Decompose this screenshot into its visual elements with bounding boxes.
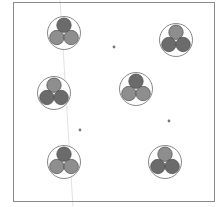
inner-circle-right	[165, 159, 179, 173]
cluster	[38, 77, 71, 110]
cluster	[120, 73, 153, 106]
inner-circle-top	[47, 78, 61, 92]
cluster	[149, 146, 182, 179]
dot-marker	[79, 129, 82, 132]
inner-circle-top	[57, 147, 71, 161]
inner-circle-right	[54, 90, 68, 104]
inner-circle-left	[162, 37, 176, 51]
cluster	[48, 17, 81, 50]
diagram-canvas	[0, 0, 217, 207]
cluster	[48, 146, 81, 179]
dot-marker	[113, 46, 116, 49]
cluster	[160, 24, 193, 57]
cluster-group	[38, 17, 193, 179]
dot-marker	[168, 120, 171, 123]
inner-circle-left	[151, 159, 165, 173]
inner-circle-right	[136, 86, 150, 100]
inner-circle-top	[169, 25, 183, 39]
inner-circle-right	[176, 37, 190, 51]
inner-circle-top	[129, 74, 143, 88]
inner-circle-left	[40, 90, 54, 104]
inner-circle-top	[57, 18, 71, 32]
inner-circle-left	[122, 86, 136, 100]
inner-circle-left	[50, 30, 64, 44]
inner-circle-left	[50, 159, 64, 173]
inner-circle-right	[64, 30, 78, 44]
inner-circle-top	[158, 147, 172, 161]
inner-circle-right	[64, 159, 78, 173]
